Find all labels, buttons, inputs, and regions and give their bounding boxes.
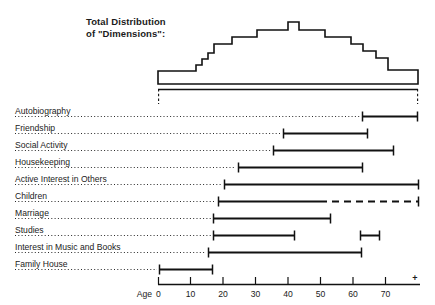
row-marriage: Marriage [15, 208, 331, 224]
chart-title-line-1: Total Distribution [86, 16, 166, 27]
row-label-family-house: Family House [15, 259, 68, 269]
row-label-friendship: Friendship [15, 123, 55, 133]
row-family-house: Family House [15, 259, 213, 275]
row-label-children: Children [15, 191, 47, 201]
axis-open-end-label: + [412, 273, 417, 283]
row-social-activity: Social Activity [15, 140, 394, 156]
axis-tick-label-70: 70 [381, 289, 391, 299]
row-label-social-activity: Social Activity [15, 140, 68, 150]
distribution-chart: Total Distribution of "Dimensions": Auto… [0, 0, 435, 305]
histogram-outline-group [158, 22, 418, 104]
row-studies: Studies [15, 225, 380, 241]
row-housekeeping: Housekeeping [15, 157, 363, 173]
row-label-active-interest-in-others: Active Interest in Others [15, 174, 107, 184]
row-active-interest-in-others: Active Interest in Others [15, 174, 419, 190]
row-label-housekeeping: Housekeeping [15, 157, 70, 167]
axis-tick-label-20: 20 [218, 289, 228, 299]
age-axis: Age 0 10 20 30 40 50 60 70 + [137, 273, 420, 299]
row-children: Children [15, 191, 419, 207]
axis-label-age: Age [137, 289, 153, 299]
row-label-studies: Studies [15, 225, 44, 235]
axis-tick-label-0: 0 [156, 289, 161, 299]
chart-title-line-2: of "Dimensions": [86, 28, 165, 39]
histogram-outline [158, 22, 418, 84]
row-interest-in-music-and-books: Interest in Music and Books [15, 242, 362, 258]
axis-tick-label-60: 60 [348, 289, 358, 299]
row-label-autobiography: Autobiography [15, 106, 71, 116]
axis-tick-label-50: 50 [316, 289, 326, 299]
row-label-marriage: Marriage [15, 208, 49, 218]
row-autobiography: Autobiography [15, 106, 418, 122]
chart-page: Total Distribution of "Dimensions": Auto… [0, 0, 435, 305]
row-label-interest-in-music-and-books: Interest in Music and Books [15, 242, 121, 252]
row-friendship: Friendship [15, 123, 368, 139]
axis-tick-label-10: 10 [186, 289, 196, 299]
axis-tick-label-30: 30 [251, 289, 261, 299]
axis-tick-label-40: 40 [283, 289, 293, 299]
